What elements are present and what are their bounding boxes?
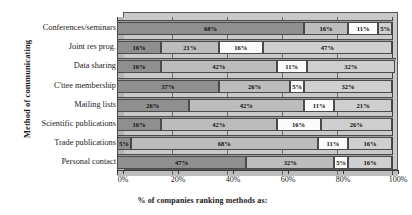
bar-segment: 21% [334,99,392,112]
x-axis-tick [123,170,124,174]
bar-segment: 42% [161,118,277,131]
category-label: Conferences/seminars [18,23,116,32]
x-axis: 0%20%40%60%80%100% [117,170,398,172]
bar-segment: 5% [117,137,131,150]
bar-segment-label: 16% [132,44,145,51]
bar-segment-label: 26% [146,102,159,109]
x-axis-tick-label: 40% [213,175,253,184]
bar-segment-label: 26% [350,121,363,128]
bars-area: 68%16%11%5%16%21%16%47%16%42%11%32%37%26… [117,17,392,175]
bar-segment: 21% [161,41,219,54]
x-axis-tick [343,170,344,174]
x-axis-tick [288,170,289,174]
bar-segment-label: 68% [204,25,217,32]
x-axis-title: % of companies ranking methods as: [0,196,405,205]
bar-segment-label: 16% [319,25,332,32]
bar-row: 16%21%16%47% [117,39,392,54]
category-label: Joint res prog. [18,42,116,51]
plot-area: 68%16%11%5%16%21%16%47%16%42%11%32%37%26… [117,12,398,175]
x-axis-tick-label: 60% [268,175,308,184]
bar-segment-label: 26% [248,83,261,90]
category-label: Scientific publications [18,119,116,128]
bar-segment: 26% [219,80,291,93]
bar-segment: 16% [348,156,392,169]
bar-segment-label: 68% [218,140,231,147]
bar-segment-label: 42% [212,121,225,128]
bar-segment: 32% [246,156,334,169]
bar-row: 26%42%11%21% [117,97,392,112]
bar-segment: 16% [348,137,392,150]
bar-row: 68%16%11%5% [117,20,392,35]
bar-segment-label: 16% [292,121,305,128]
x-axis-tick-label: 100% [378,175,412,184]
bar-row: 47%32%5%16% [117,154,392,169]
bar-segment-label: 5% [292,83,302,90]
bar-segment: 11% [304,99,334,112]
bar-segment: 68% [131,137,318,150]
x-axis-tick [398,170,399,174]
bar-segment-label: 47% [321,44,334,51]
category-label: Trade publications [18,138,116,147]
bar-segment: 26% [117,99,189,112]
bar-segment-label: 16% [234,44,247,51]
bar-segment-label: 16% [363,140,376,147]
bar-segment-label: 5% [336,159,346,166]
bar-segment: 42% [161,60,277,73]
bar-segment-label: 16% [363,159,376,166]
bar-segment-label: 32% [284,159,297,166]
bar-segment-label: 5% [119,140,129,147]
bar-segment: 5% [290,80,304,93]
x-axis-tick-label: 80% [323,175,363,184]
bar-segment: 68% [117,22,304,35]
bar-segment: 11% [348,22,378,35]
bar-segment: 16% [277,118,321,131]
bar-segment: 42% [189,99,305,112]
bar-segment: 16% [219,41,263,54]
bar-segment: 37% [117,80,219,93]
bar-segment-label: 11% [357,25,370,32]
bar-row: 5%68%11%16% [117,135,392,150]
bar-segment-label: 16% [132,121,145,128]
x-axis-tick [233,170,234,174]
x-axis-tick-label: 0% [103,175,143,184]
bar-segment-label: 47% [175,159,188,166]
bar-segment-label: 32% [341,83,354,90]
bar-row: 16%42%16%26% [117,116,392,131]
bar-segment: 5% [334,156,348,169]
bar-segment: 5% [378,22,392,35]
bar-segment: 11% [318,137,348,150]
bar-segment-label: 32% [344,63,357,70]
category-label: Personal contact [18,157,116,166]
bar-segment: 47% [263,41,392,54]
bar-segment: 16% [117,118,161,131]
bar-segment-label: 5% [380,25,390,32]
bar-segment-label: 11% [285,63,298,70]
bar-segment: 32% [307,60,395,73]
category-label: C'ttee membership [18,81,116,90]
bar-segment: 16% [117,41,161,54]
bar-segment-label: 21% [183,44,196,51]
bar-segment-label: 11% [313,102,326,109]
bar-segment: 32% [304,80,392,93]
x-axis-line [117,170,398,171]
bar-segment-label: 21% [357,102,370,109]
bar-row: 16%42%11%32% [117,58,392,73]
bar-segment-label: 42% [240,102,253,109]
bar-segment-label: 16% [132,63,145,70]
bar-segment: 47% [117,156,246,169]
category-label: Data sharing [18,61,116,70]
bar-segment: 16% [117,60,161,73]
x-axis-tick [178,170,179,174]
bar-segment-label: 42% [212,63,225,70]
bar-segment-label: 11% [326,140,339,147]
bar-row: 37%26%5%32% [117,78,392,93]
bar-segment: 16% [304,22,348,35]
category-label: Mailing lists [18,100,116,109]
bar-segment: 11% [277,60,307,73]
bar-segment: 26% [321,118,393,131]
bar-segment-label: 37% [161,83,174,90]
x-axis-tick-label: 20% [158,175,198,184]
category-label-list: Conferences/seminarsJoint res prog.Data … [18,17,116,170]
